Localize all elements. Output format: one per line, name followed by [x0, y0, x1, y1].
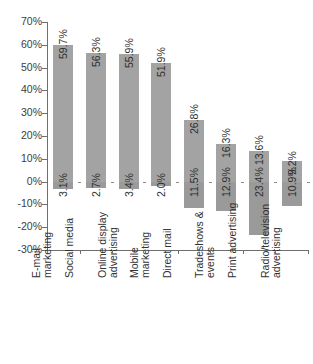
y-axis-tick-label-text: 70%: [2, 16, 42, 26]
category-label-line-1: Radio/television: [259, 204, 271, 278]
bar-value-label-negative: 23.4%: [254, 167, 264, 197]
y-axis-tick-label: 60%: [0, 39, 42, 49]
y-axis-tick-label-text: -10%: [2, 198, 42, 208]
y-axis-tick-label: -10%: [0, 198, 42, 208]
y-axis-tick-label: 20%: [0, 130, 42, 140]
y-axis-tick-label: 0%: [0, 176, 42, 186]
category-label-line-2: advertising: [108, 212, 119, 278]
x-axis-tick-mark: [112, 250, 113, 254]
category-label-line-1: Online display: [96, 212, 108, 278]
x-axis-tick-mark: [210, 250, 211, 254]
bar-value-label-negative: 2.7%: [91, 173, 101, 197]
y-axis-tick-label-text: -20%: [2, 221, 42, 231]
bar-positive: [53, 45, 73, 181]
category-label-line-2: marketing: [42, 232, 53, 278]
bar-value-label-negative: 11.5%: [189, 168, 199, 197]
y-axis-tick-label-text: 30%: [2, 107, 42, 117]
x-axis-tick-mark: [243, 250, 244, 254]
y-axis-tick-label-text: 20%: [2, 130, 42, 140]
y-axis-tick-label-text: 10%: [2, 153, 42, 163]
bar-positive: [151, 63, 171, 181]
x-axis-category-label: E-mailmarketing: [31, 232, 53, 278]
y-axis-tick-label: 70%: [0, 16, 42, 26]
zero-baseline-tick: [241, 182, 244, 183]
bar-value-label-positive: 59.7%: [58, 30, 68, 60]
bar-positive: [86, 53, 106, 181]
x-axis-category-label: Tradeshows &events: [194, 211, 216, 278]
y-axis-tick-label-text: 40%: [2, 84, 42, 94]
bar-value-label-negative: 10.9%: [287, 167, 297, 197]
zero-baseline-tick: [78, 182, 81, 183]
x-axis-category-label: Print advertising: [227, 203, 249, 278]
y-axis-tick-label-text: 0%: [2, 176, 42, 186]
y-axis-tick-label: 10%: [0, 153, 42, 163]
bar-value-label-positive: 56.3%: [91, 37, 101, 67]
x-axis-tick-mark: [178, 250, 179, 254]
y-axis-tick-label: 30%: [0, 107, 42, 117]
category-label-line-1: Print advertising: [226, 203, 238, 278]
bar-positive: [119, 54, 139, 181]
zero-baseline-tick: [176, 182, 179, 183]
y-axis-tick-label: -20%: [0, 221, 42, 231]
bar-value-label-positive: 51.9%: [156, 47, 166, 77]
bar-value-label-positive: 13.6%: [254, 135, 264, 165]
x-axis-category-label: Online displayadvertising: [97, 212, 119, 278]
bar-value-label-positive: 26.8%: [189, 105, 199, 135]
category-label-line-1: Direct mail: [161, 228, 173, 278]
bar-value-label-negative: 3.4%: [124, 173, 134, 197]
zero-baseline-tick: [209, 182, 212, 183]
category-label-line-2: events: [205, 211, 216, 278]
zero-baseline-tick: [274, 182, 277, 183]
y-axis-tick-label: 50%: [0, 62, 42, 72]
bar-value-label-negative: 2.0%: [156, 173, 166, 197]
zero-baseline-tick: [307, 182, 310, 183]
bar-value-label-positive: 55.9%: [124, 38, 134, 68]
x-axis-category-label: Social media: [64, 218, 86, 278]
bar-value-label-negative: 12.9%: [221, 167, 231, 197]
zero-baseline-tick: [143, 182, 146, 183]
x-axis-category-label: Mobilemarketing: [129, 232, 151, 278]
x-axis-category-label: Radio/televisionadvertising: [260, 204, 282, 278]
category-label-line-1: Social media: [63, 218, 75, 278]
category-label-line-2: marketing: [140, 232, 151, 278]
y-axis-tick-label: 40%: [0, 84, 42, 94]
bar-chart: 70%60%50%40%30%20%10%0%-10%-20%-30% 59.7…: [0, 0, 313, 364]
category-label-line-2: advertising: [271, 204, 282, 278]
y-axis-tick-label-text: 60%: [2, 39, 42, 49]
x-axis-tick-mark: [275, 250, 276, 254]
y-axis-tick-label-text: 50%: [2, 62, 42, 72]
x-axis-tick-mark: [308, 250, 309, 254]
x-axis-category-label: Direct mail: [162, 228, 184, 278]
bar-value-label-negative: 3.1%: [58, 173, 68, 197]
x-axis-tick-mark: [80, 250, 81, 254]
zero-baseline-tick: [111, 182, 114, 183]
bar-value-label-positive: 16.3%: [221, 129, 231, 159]
x-axis-tick-mark: [145, 250, 146, 254]
